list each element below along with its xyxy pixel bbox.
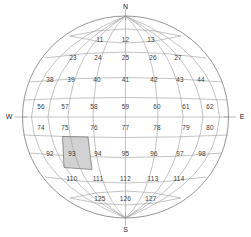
- cell-44[interactable]: 44: [197, 76, 205, 83]
- cell-13[interactable]: 13: [147, 36, 155, 43]
- cell-75[interactable]: 75: [61, 124, 69, 131]
- compass-east-label: E: [240, 113, 245, 120]
- compass-west-label: W: [6, 113, 13, 120]
- cell-58[interactable]: 58: [90, 103, 98, 110]
- cell-62[interactable]: 62: [206, 103, 214, 110]
- cell-43[interactable]: 43: [176, 76, 184, 83]
- cell-80[interactable]: 80: [206, 124, 214, 131]
- cell-94[interactable]: 94: [94, 150, 102, 157]
- cell-113[interactable]: 113: [148, 175, 159, 182]
- cell-band-3: 38 39 40 41 42 43 44: [46, 76, 205, 83]
- cell-125[interactable]: 125: [94, 195, 106, 202]
- cell-127[interactable]: 127: [145, 195, 157, 202]
- cell-97[interactable]: 97: [176, 150, 184, 157]
- cell-band-1: 11 12 13: [96, 36, 155, 43]
- cell-76[interactable]: 76: [90, 124, 98, 131]
- cell-band-8: 125 126 127: [94, 195, 157, 202]
- cell-42[interactable]: 42: [150, 76, 158, 83]
- cell-band-5: 74 75 76 77 78 79 80: [37, 124, 214, 131]
- globe-grid-diagram: N S W E 11 12 13 23 24 25 26 27 38 39 40…: [0, 0, 251, 237]
- cell-61[interactable]: 61: [182, 103, 190, 110]
- cell-26[interactable]: 26: [149, 54, 157, 61]
- cell-25[interactable]: 25: [122, 54, 130, 61]
- cell-95[interactable]: 95: [122, 150, 130, 157]
- cell-92[interactable]: 92: [46, 150, 54, 157]
- cell-38[interactable]: 38: [46, 76, 54, 83]
- cell-41[interactable]: 41: [122, 76, 130, 83]
- cell-57[interactable]: 57: [61, 103, 69, 110]
- cell-59[interactable]: 59: [122, 103, 130, 110]
- cell-98[interactable]: 98: [198, 150, 206, 157]
- cell-band-4: 56 57 58 59 60 61 62: [37, 103, 214, 110]
- cell-114[interactable]: 114: [174, 175, 185, 182]
- compass-south-label: S: [123, 226, 128, 233]
- cell-74[interactable]: 74: [37, 124, 45, 131]
- highlighted-cell-93[interactable]: [63, 137, 93, 170]
- cell-78[interactable]: 78: [153, 124, 161, 131]
- cell-12[interactable]: 12: [122, 36, 130, 43]
- cell-56[interactable]: 56: [37, 103, 45, 110]
- cell-112[interactable]: 112: [120, 175, 131, 182]
- cell-110[interactable]: 110: [67, 175, 78, 182]
- cell-77[interactable]: 77: [122, 124, 130, 131]
- cell-79[interactable]: 79: [182, 124, 190, 131]
- cell-39[interactable]: 39: [67, 76, 75, 83]
- cell-11[interactable]: 11: [96, 36, 103, 43]
- cell-24[interactable]: 24: [94, 54, 102, 61]
- cell-93[interactable]: 93: [68, 150, 76, 157]
- cell-111[interactable]: 111: [93, 175, 104, 182]
- cell-126[interactable]: 126: [120, 195, 132, 202]
- cell-27[interactable]: 27: [174, 54, 182, 61]
- cell-60[interactable]: 60: [153, 103, 161, 110]
- cell-band-6: 92 93 94 95 96 97 98: [46, 150, 206, 157]
- cell-96[interactable]: 96: [150, 150, 158, 157]
- cell-40[interactable]: 40: [93, 76, 101, 83]
- cell-23[interactable]: 23: [69, 54, 77, 61]
- compass-north-label: N: [123, 3, 128, 10]
